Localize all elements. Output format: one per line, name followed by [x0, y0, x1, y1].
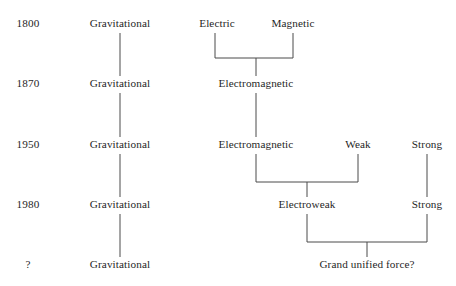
force-unification-diagram: 1800 Gravitational Electric Magnetic 187…	[0, 0, 456, 286]
node-gravitational-1870: Gravitational	[90, 77, 150, 89]
year-label-1980: 1980	[17, 198, 40, 210]
timeline-row-1980: 1980 Gravitational Electroweak Strong	[17, 198, 443, 210]
node-magnetic-1800: Magnetic	[271, 17, 314, 29]
node-gravitational-1950: Gravitational	[90, 138, 150, 150]
year-label-1870: 1870	[17, 77, 40, 89]
node-electric-1800: Electric	[199, 17, 235, 29]
node-electroweak-1980: Electroweak	[278, 198, 335, 210]
year-label-1950: 1950	[17, 138, 40, 150]
timeline-row-1870: 1870 Gravitational Electromagnetic	[17, 77, 294, 89]
node-strong-1950: Strong	[412, 138, 443, 150]
bracket-electromagnetic-weak	[256, 154, 358, 197]
year-label-future: ?	[25, 258, 30, 270]
diagram-canvas: 1800 Gravitational Electric Magnetic 187…	[0, 0, 456, 286]
node-gravitational-future: Gravitational	[90, 258, 150, 270]
node-grand-unified-force-future: Grand unified force?	[319, 258, 414, 270]
bracket-electric-magnetic	[215, 33, 293, 76]
node-electromagnetic-1870: Electromagnetic	[219, 77, 294, 89]
node-gravitational-1980: Gravitational	[90, 198, 150, 210]
node-weak-1950: Weak	[345, 138, 371, 150]
bracket-electroweak-strong	[307, 214, 427, 257]
node-gravitational-1800: Gravitational	[90, 17, 150, 29]
timeline-row-future: ? Gravitational Grand unified force?	[25, 258, 414, 270]
timeline-row-1950: 1950 Gravitational Electromagnetic Weak …	[17, 138, 443, 150]
node-strong-1980: Strong	[412, 198, 443, 210]
node-electromagnetic-1950: Electromagnetic	[219, 138, 294, 150]
year-label-1800: 1800	[17, 17, 40, 29]
timeline-row-1800: 1800 Gravitational Electric Magnetic	[17, 17, 315, 29]
